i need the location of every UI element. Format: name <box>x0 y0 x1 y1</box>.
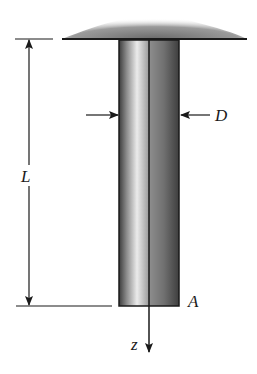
length-dimension: L <box>15 39 112 306</box>
circular-bar <box>119 40 179 306</box>
end-point-label: A <box>187 292 199 311</box>
bar-diagram: z A D L <box>0 0 257 374</box>
diameter-label: D <box>214 106 228 125</box>
bar-left-half <box>119 40 149 306</box>
z-axis-label: z <box>130 335 138 354</box>
support-hatching <box>62 12 247 39</box>
fixed-support <box>62 12 247 39</box>
bar-right-half <box>149 40 179 306</box>
z-axis: z <box>130 306 149 354</box>
length-label: L <box>20 167 30 186</box>
